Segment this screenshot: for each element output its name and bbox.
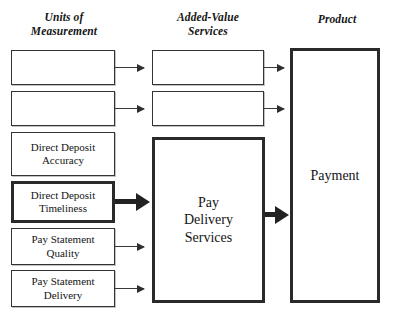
arrow-right-icon-unit1-to-service1 [115,67,144,68]
unit-box-direct-deposit-accuracy[interactable]: Direct Deposit Accuracy [11,132,115,176]
unit-box-direct-deposit-timeliness-label: Direct Deposit Timeliness [31,189,95,216]
arrow-right-bold-icon-timeliness-to-pay-delivery [115,199,137,204]
unit-box-pay-statement-quality-label: Pay Statement Quality [31,233,94,260]
unit-box-empty-1[interactable] [11,50,115,85]
product-box-payment-label: Payment [311,167,360,185]
unit-box-direct-deposit-timeliness[interactable]: Direct Deposit Timeliness [11,181,115,223]
service-box-empty-1[interactable] [152,50,264,85]
service-box-empty-2[interactable] [152,91,264,126]
unit-box-empty-2[interactable] [11,91,115,126]
unit-box-pay-statement-quality[interactable]: Pay Statement Quality [11,228,115,265]
column-heading-units-of-measurement: Units of Measurement [8,10,120,38]
process-flow-diagram: Units of Measurement Added-Value Service… [0,0,398,317]
unit-box-pay-statement-delivery[interactable]: Pay Statement Delivery [11,270,115,307]
unit-box-pay-statement-delivery-label: Pay Statement Delivery [31,275,94,302]
arrow-right-icon-delivery-to-pay-delivery [115,288,144,289]
service-box-pay-delivery-services-label: Pay Delivery Services [184,194,233,247]
arrow-right-icon-service2-to-payment [264,108,284,109]
arrow-right-icon-quality-to-pay-delivery [115,246,144,247]
arrow-right-icon-unit2-to-service2 [115,108,144,109]
unit-box-direct-deposit-accuracy-label: Direct Deposit Accuracy [31,141,95,168]
service-box-pay-delivery-services[interactable]: Pay Delivery Services [152,137,265,303]
column-heading-product: Product [292,12,382,26]
column-heading-added-value-services: Added-Value Services [148,10,268,38]
product-box-payment[interactable]: Payment [290,48,380,303]
arrow-right-bold-icon-pay-delivery-to-payment [265,212,276,217]
arrow-right-icon-service1-to-payment [264,67,284,68]
